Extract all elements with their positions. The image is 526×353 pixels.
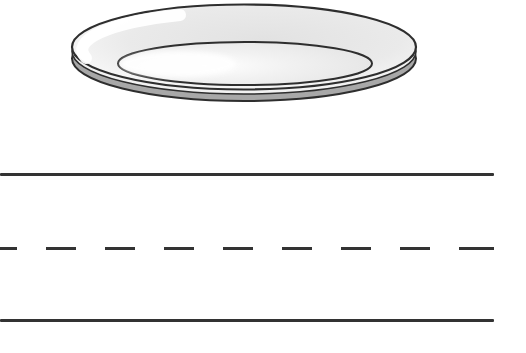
writing-line-middle-dashed	[0, 247, 494, 250]
writing-line-bottom	[0, 319, 494, 322]
writing-lines	[0, 0, 526, 353]
worksheet-page	[0, 0, 526, 353]
writing-line-top	[0, 173, 494, 176]
